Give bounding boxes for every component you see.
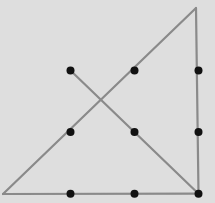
dot-r0-c0 — [67, 67, 75, 75]
nine-dots-diagram — [0, 0, 215, 203]
dot-r2-c0 — [67, 190, 75, 198]
background — [0, 0, 215, 203]
dot-r1-c0 — [67, 128, 75, 136]
dot-r0-c2 — [195, 67, 203, 75]
dot-r1-c2 — [195, 128, 203, 136]
dot-r2-c1 — [131, 190, 139, 198]
dot-r1-c1 — [131, 128, 139, 136]
dot-r2-c2 — [195, 190, 203, 198]
dot-r0-c1 — [131, 67, 139, 75]
